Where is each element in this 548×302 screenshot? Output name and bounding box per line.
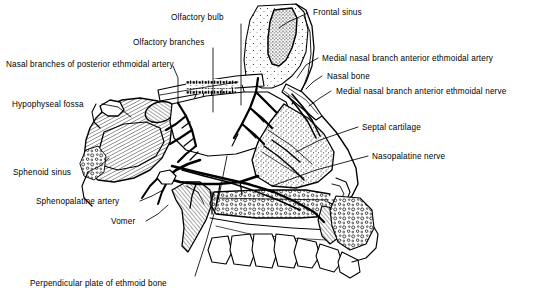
- leader-nasal-bone: [306, 76, 322, 89]
- label-sphenoid-sinus: Sphenoid sinus: [13, 168, 71, 177]
- label-perpendicular-plate-of-ethmoid-bone: Perpendicular plate of ethmoid bone: [30, 279, 167, 288]
- label-olfactory-bulb: Olfactory bulb: [171, 13, 224, 22]
- leader-medial-nasal-nerve: [309, 91, 331, 106]
- label-olfactory-branches: Olfactory branches: [133, 38, 204, 47]
- label-nasal-bone: Nasal bone: [327, 72, 370, 81]
- label-septal-cartilage: Septal cartilage: [362, 123, 421, 132]
- label-medial-nasal-branch-anterior-ethmoidal-nerve: Medial nasal branch anterior ethmoidal n…: [336, 87, 506, 96]
- anatomy-illustration: [0, 0, 548, 302]
- label-nasopalatine-nerve: Nasopalatine nerve: [372, 152, 445, 161]
- maxilla-cancellous: [330, 196, 374, 250]
- leader-vomer: [146, 205, 168, 221]
- anatomical-figure: Frontal sinus Olfactory bulb Olfactory b…: [0, 0, 548, 302]
- label-frontal-sinus: Frontal sinus: [313, 8, 362, 17]
- label-sphenopalatine-artery: Sphenopalatine artery: [36, 197, 119, 206]
- sphenopalatine-artery-trunk: [166, 160, 258, 184]
- label-hypophyseal-fossa: Hypophyseal fossa: [12, 100, 84, 109]
- label-nasal-branches-posterior-ethmoidal-artery: Nasal branches of posterior ethmoidal ar…: [6, 60, 174, 69]
- label-medial-nasal-branch-anterior-ethmoidal-artery: Medial nasal branch anterior ethmoidal a…: [322, 54, 493, 63]
- label-vomer: Vomer: [111, 217, 135, 226]
